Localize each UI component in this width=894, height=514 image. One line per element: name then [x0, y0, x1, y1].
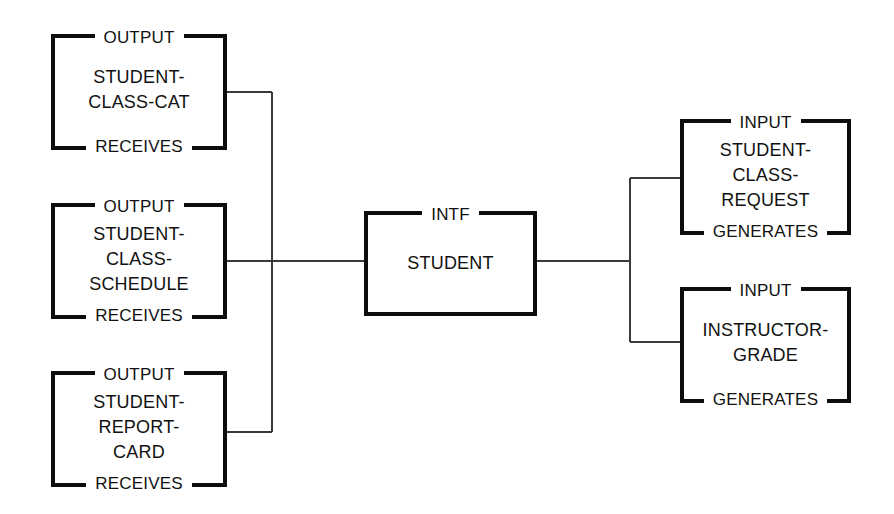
node-bottom-label: RECEIVES — [51, 138, 227, 155]
node-bottom-label: GENERATES — [680, 391, 851, 408]
node-title: STUDENT- CLASS-CAT — [51, 65, 227, 115]
node-title: STUDENT- CLASS- REQUEST — [680, 138, 851, 213]
node-title: STUDENT- CLASS- SCHEDULE — [51, 222, 227, 297]
node-student-class-schedule[interactable]: OUTPUT STUDENT- CLASS- SCHEDULE RECEIVES — [51, 203, 227, 319]
node-top-label: OUTPUT — [51, 366, 227, 383]
node-top-label: INPUT — [680, 282, 851, 299]
node-top-label: OUTPUT — [51, 198, 227, 215]
node-student-class-cat[interactable]: OUTPUT STUDENT- CLASS-CAT RECEIVES — [51, 34, 227, 150]
node-top-label: INPUT — [680, 114, 851, 131]
node-title: INSTRUCTOR- GRADE — [680, 318, 851, 368]
node-bottom-label: RECEIVES — [51, 307, 227, 324]
node-title: STUDENT — [364, 251, 537, 276]
entity-interface-diagram: OUTPUT STUDENT- CLASS-CAT RECEIVES OUTPU… — [0, 0, 894, 514]
node-bottom-label: GENERATES — [680, 223, 851, 240]
node-student-class-request[interactable]: INPUT STUDENT- CLASS- REQUEST GENERATES — [680, 119, 851, 235]
box-border-bottom — [364, 312, 537, 316]
node-title: STUDENT- REPORT- CARD — [51, 390, 227, 465]
node-student-report-card[interactable]: OUTPUT STUDENT- REPORT- CARD RECEIVES — [51, 371, 227, 487]
node-top-label: INTF — [364, 206, 537, 223]
node-student[interactable]: INTF STUDENT — [364, 211, 537, 316]
node-bottom-label: RECEIVES — [51, 475, 227, 492]
node-top-label: OUTPUT — [51, 29, 227, 46]
node-instructor-grade[interactable]: INPUT INSTRUCTOR- GRADE GENERATES — [680, 287, 851, 403]
